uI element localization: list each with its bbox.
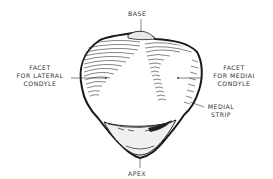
label-lateral-facet-line2: FOR LATERAL	[12, 72, 68, 80]
label-apex: APEX	[128, 170, 146, 178]
label-medial-facet-line2: FOR MEDIAI	[206, 72, 262, 80]
label-medial-strip-line1: MEDIAL	[203, 103, 239, 111]
lateral-facet-leader-dot	[105, 77, 107, 79]
label-apex-text: APEX	[128, 170, 146, 177]
label-medial-strip-line2: STRIP	[203, 111, 239, 119]
label-base-text: BASE	[128, 10, 146, 17]
label-lateral-facet: FACET FOR LATERAL CONDYLE	[12, 64, 68, 88]
patella-illustration	[0, 0, 273, 179]
label-lateral-facet-line3: CONDYLE	[12, 80, 68, 88]
label-lateral-facet-line1: FACET	[12, 64, 68, 72]
label-medial-facet-line1: FACET	[206, 64, 262, 72]
label-medial-strip: MEDIAL STRIP	[203, 103, 239, 119]
label-medial-facet: FACET FOR MEDIAI CONDYLE	[206, 64, 262, 88]
medial-facet-leader-dot	[177, 77, 179, 79]
label-medial-facet-line3: CONDYLE	[206, 80, 262, 88]
label-base: BASE	[128, 10, 146, 18]
base-region	[128, 31, 155, 39]
